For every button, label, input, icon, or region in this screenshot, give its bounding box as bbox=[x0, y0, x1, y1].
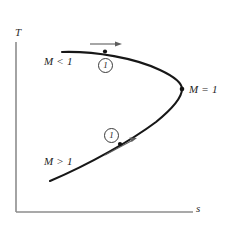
fanno-line-figure: T s M < 1 M > 1 M = 1 1 1 bbox=[0, 0, 226, 230]
sonic-point-dot bbox=[180, 87, 185, 92]
x-axis-label: s bbox=[196, 203, 200, 214]
lower-state-dot bbox=[118, 142, 122, 146]
y-axis-label: T bbox=[15, 27, 21, 38]
subsonic-arrow-head bbox=[115, 42, 122, 47]
upper-state-circle: 1 bbox=[98, 58, 113, 73]
sonic-point-label: M = 1 bbox=[189, 84, 218, 95]
upper-state-dot bbox=[103, 49, 107, 53]
subsonic-branch-label: M < 1 bbox=[44, 56, 73, 67]
subsonic-process-arrow bbox=[90, 42, 122, 47]
plot-canvas bbox=[0, 0, 226, 230]
lower-state-circle: 1 bbox=[104, 128, 119, 143]
supersonic-branch-label: M > 1 bbox=[44, 156, 73, 167]
